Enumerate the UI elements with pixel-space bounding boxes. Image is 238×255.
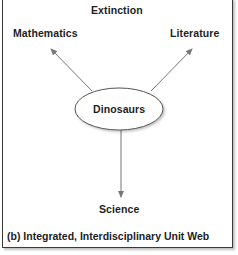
arrow-to-literature bbox=[151, 49, 192, 91]
diagram-caption: (b) Integrated, Interdisciplinary Unit W… bbox=[7, 230, 209, 242]
center-node-dinosaurs: Dinosaurs bbox=[93, 103, 145, 115]
node-extinction: Extinction bbox=[91, 4, 143, 16]
arrow-to-mathematics bbox=[51, 49, 92, 91]
node-mathematics: Mathematics bbox=[13, 27, 78, 39]
node-literature: Literature bbox=[170, 27, 219, 39]
node-science: Science bbox=[99, 203, 139, 215]
